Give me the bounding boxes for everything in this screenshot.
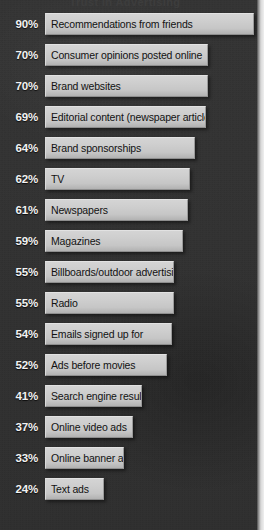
scan-edge-strip xyxy=(257,0,264,530)
bar-value-label: 55% xyxy=(0,295,38,311)
bar-row: 52%Ads before movies xyxy=(0,353,264,384)
bar: Online video ads xyxy=(45,416,133,438)
bar-category-label: Recommendations from friends xyxy=(46,14,253,34)
bar: Consumer opinions posted online xyxy=(45,44,208,66)
bar-value-label: 64% xyxy=(0,140,38,156)
bar: Brand sponsorships xyxy=(45,137,195,159)
bar-rows-container: 90%Recommendations from friends70%Consum… xyxy=(0,12,264,508)
bar-category-label: Online banner ads xyxy=(46,448,123,468)
bar-category-label: Brand websites xyxy=(46,76,207,96)
bar-value-label: 24% xyxy=(0,481,38,497)
bar-category-label: Ads before movies xyxy=(46,355,166,375)
bar-category-label: TV xyxy=(46,169,189,189)
bar-row: 61%Newspapers xyxy=(0,198,264,229)
bar-category-label: Billboards/outdoor advertising xyxy=(46,262,173,282)
bar-row: 64%Brand sponsorships xyxy=(0,136,264,167)
bar-category-label: Editorial content (newspaper article) xyxy=(46,107,205,127)
bar: Emails signed up for xyxy=(45,323,172,345)
trust-in-advertising-bar-chart: Trust in Advertising 90%Recommendations … xyxy=(0,0,264,530)
bar-value-label: 70% xyxy=(0,47,38,63)
bar: TV xyxy=(45,168,190,190)
bar-value-label: 52% xyxy=(0,357,38,373)
bar-category-label: Newspapers xyxy=(46,200,187,220)
bar-category-label: Brand sponsorships xyxy=(46,138,194,158)
bar-row: 90%Recommendations from friends xyxy=(0,12,264,43)
bar-category-label: Radio xyxy=(46,293,173,313)
bar: Brand websites xyxy=(45,75,208,97)
bar-value-label: 70% xyxy=(0,78,38,94)
bar: Search engine result ads xyxy=(45,385,142,407)
bar-value-label: 41% xyxy=(0,388,38,404)
bar-row: 69%Editorial content (newspaper article) xyxy=(0,105,264,136)
bar-row: 55%Billboards/outdoor advertising xyxy=(0,260,264,291)
bar-value-label: 90% xyxy=(0,16,38,32)
bar-category-label: Emails signed up for xyxy=(46,324,171,344)
bar-value-label: 61% xyxy=(0,202,38,218)
bar: Magazines xyxy=(45,230,183,252)
bar-value-label: 33% xyxy=(0,450,38,466)
bar: Billboards/outdoor advertising xyxy=(45,261,174,283)
bar-category-label: Magazines xyxy=(46,231,182,251)
bar-row: 70%Consumer opinions posted online xyxy=(0,43,264,74)
bar-value-label: 69% xyxy=(0,109,38,125)
bar-value-label: 37% xyxy=(0,419,38,435)
bar-value-label: 54% xyxy=(0,326,38,342)
bar-value-label: 59% xyxy=(0,233,38,249)
bar: Radio xyxy=(45,292,174,314)
bar-row: 54%Emails signed up for xyxy=(0,322,264,353)
bar: Newspapers xyxy=(45,199,188,221)
bar: Online banner ads xyxy=(45,447,124,469)
bar-value-label: 55% xyxy=(0,264,38,280)
bar: Ads before movies xyxy=(45,354,167,376)
bar-row: 33%Online banner ads xyxy=(0,446,264,477)
bar-row: 70%Brand websites xyxy=(0,74,264,105)
bar-category-label: Online video ads xyxy=(46,417,132,437)
bar-category-label: Search engine result ads xyxy=(46,386,141,406)
bar-row: 59%Magazines xyxy=(0,229,264,260)
bar-row: 37%Online video ads xyxy=(0,415,264,446)
bar: Recommendations from friends xyxy=(45,13,254,35)
bar-row: 62%TV xyxy=(0,167,264,198)
bar: Text ads xyxy=(45,478,104,500)
bar-row: 55%Radio xyxy=(0,291,264,322)
bar-category-label: Text ads xyxy=(46,479,103,499)
chart-title: Trust in Advertising xyxy=(0,0,250,8)
bar-category-label: Consumer opinions posted online xyxy=(46,45,207,65)
bar-row: 24%Text ads xyxy=(0,477,264,508)
bar-row: 41%Search engine result ads xyxy=(0,384,264,415)
bar-value-label: 62% xyxy=(0,171,38,187)
bar: Editorial content (newspaper article) xyxy=(45,106,206,128)
